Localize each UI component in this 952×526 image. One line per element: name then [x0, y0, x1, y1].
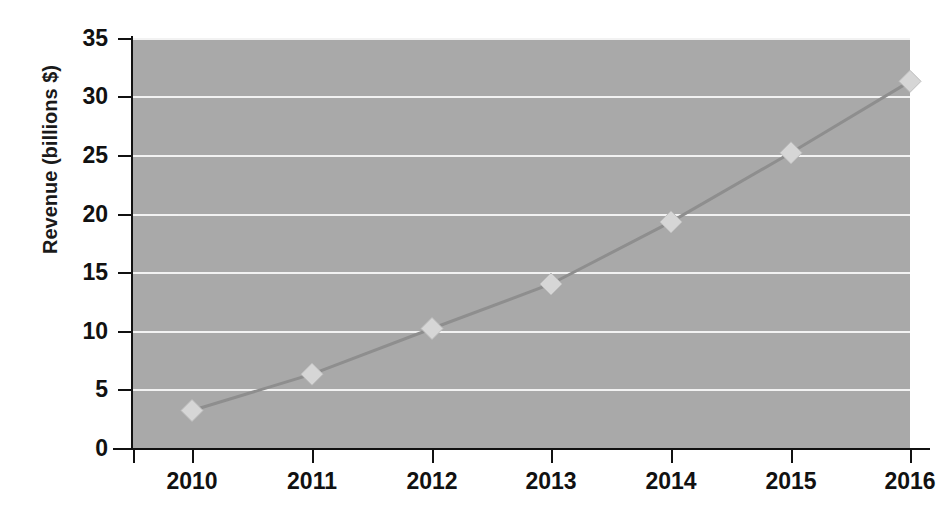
y-tick-label-15: 15: [48, 261, 108, 284]
x-tick-2011: [312, 449, 314, 463]
x-tick-2012: [432, 449, 434, 463]
gridline-10: [133, 331, 910, 333]
y-tick-label-30: 30: [48, 85, 108, 108]
x-tick-2010: [192, 449, 194, 463]
y-tick-35: [118, 38, 132, 40]
x-tick-label-2013: 2013: [506, 470, 596, 493]
y-tick-label-0: 0: [48, 437, 108, 460]
x-tick-2015: [791, 449, 793, 463]
y-tick-10: [118, 331, 132, 333]
x-tick-2010-edge: [133, 449, 135, 463]
gridline-35: [133, 38, 910, 40]
y-tick-label-25: 25: [48, 144, 108, 167]
gridline-20: [133, 214, 910, 216]
plot-area: [133, 38, 910, 448]
x-tick-label-2011: 2011: [267, 470, 357, 493]
x-tick-2016: [910, 449, 912, 463]
gridline-25: [133, 155, 910, 157]
x-tick-label-2010: 2010: [147, 470, 237, 493]
y-tick-20: [118, 214, 132, 216]
y-tick-label-20: 20: [48, 203, 108, 226]
gridline-5: [133, 389, 910, 391]
x-tick-label-2014: 2014: [626, 470, 716, 493]
y-tick-25: [118, 155, 132, 157]
y-axis-line: [131, 36, 133, 450]
y-tick-15: [118, 272, 132, 274]
x-tick-label-2016: 2016: [865, 470, 952, 493]
y-tick-30: [118, 96, 132, 98]
x-tick-2013: [551, 449, 553, 463]
gridline-15: [133, 272, 910, 274]
x-tick-2014: [671, 449, 673, 463]
x-tick-label-2015: 2015: [746, 470, 836, 493]
revenue-line-chart: Revenue (billions $) 35 30 25 20 15 10 5…: [0, 0, 952, 526]
y-tick-5: [118, 389, 132, 391]
x-axis-line: [113, 448, 930, 450]
y-tick-0: [118, 448, 132, 450]
y-tick-label-35: 35: [48, 27, 108, 50]
gridline-30: [133, 96, 910, 98]
x-tick-label-2012: 2012: [387, 470, 477, 493]
y-tick-label-5: 5: [48, 378, 108, 401]
y-tick-label-10: 10: [48, 320, 108, 343]
